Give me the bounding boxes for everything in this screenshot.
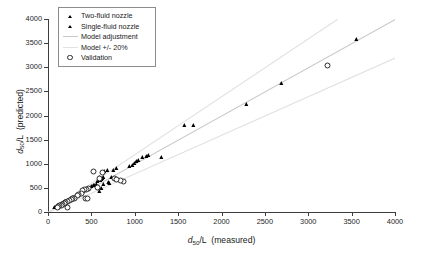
legend-item: Model +/- 20%: [59, 42, 152, 52]
data-point: [140, 155, 144, 159]
legend-item: Model adjustment: [59, 32, 152, 42]
line-swatch-faint-icon: [63, 47, 78, 48]
data-point: [111, 169, 115, 173]
x-tick-label: 3000: [300, 218, 316, 225]
legend-key: [59, 25, 81, 28]
data-point: [244, 102, 248, 106]
data-point: [64, 204, 70, 210]
y-tick-label: 1000: [26, 160, 42, 167]
x-tick-label: 4000: [387, 218, 403, 225]
legend-item: Single-fluid nozzle: [59, 21, 152, 31]
x-tick-label: 0: [46, 218, 50, 225]
data-point: [91, 169, 97, 175]
x-tick: [352, 212, 353, 216]
x-tick: [48, 212, 49, 216]
legend-key: [59, 36, 81, 37]
legend-item: Two-fluid nozzle: [59, 11, 152, 21]
data-point: [106, 180, 110, 184]
x-tick: [308, 212, 309, 216]
x-tick-label: 500: [85, 218, 97, 225]
data-point: [144, 155, 148, 159]
data-point: [354, 37, 358, 41]
x-tick: [265, 212, 266, 216]
y-tick-label: 2000: [26, 112, 42, 119]
x-tick-label: 2500: [257, 218, 273, 225]
y-tick-label: 1500: [26, 136, 42, 143]
data-point: [96, 176, 102, 182]
data-point: [100, 170, 106, 176]
legend-item: Validation: [59, 53, 152, 63]
data-point: [325, 63, 331, 69]
x-tick: [135, 212, 136, 216]
scatter-chart-figure: d50/L (predicted) 0500100015002000250030…: [0, 0, 429, 254]
chart-legend: Two-fluid nozzleSingle-fluid nozzleModel…: [58, 7, 156, 67]
legend-label: Single-fluid nozzle: [81, 23, 139, 31]
data-point: [101, 182, 105, 186]
x-tick-label: 2000: [213, 218, 229, 225]
x-tick: [178, 212, 179, 216]
data-point: [113, 176, 119, 182]
legend-label: Model adjustment: [81, 33, 138, 41]
x-tick: [91, 212, 92, 216]
legend-key: [59, 47, 81, 48]
x-tick-label: 1000: [127, 218, 143, 225]
data-point: [54, 204, 60, 210]
data-point: [115, 166, 119, 170]
data-point: [159, 156, 163, 160]
data-point: [94, 184, 100, 190]
legend-key: [59, 55, 81, 60]
line-swatch-icon: [63, 36, 78, 37]
data-point: [280, 81, 284, 85]
data-point: [127, 164, 131, 168]
filled-triangle-icon: [68, 15, 72, 18]
filled-triangle-icon: [68, 25, 72, 28]
x-tick-label: 3500: [343, 218, 359, 225]
x-tick: [395, 212, 396, 216]
legend-label: Two-fluid nozzle: [81, 12, 133, 20]
y-tick-label: 3500: [26, 39, 42, 46]
x-tick-label: 1500: [170, 218, 186, 225]
legend-key: [59, 15, 81, 18]
y-tick-label: 0: [38, 208, 42, 215]
legend-label: Model +/- 20%: [81, 44, 128, 52]
data-point: [85, 195, 91, 201]
legend-label: Validation: [81, 54, 112, 62]
y-tick-label: 2500: [26, 88, 42, 95]
x-tick: [222, 212, 223, 216]
y-tick-label: 4000: [26, 15, 42, 22]
data-point: [182, 123, 186, 127]
data-point: [191, 123, 195, 127]
y-tick-label: 500: [30, 184, 42, 191]
open-circle-icon: [67, 55, 72, 60]
y-tick-label: 3000: [26, 64, 42, 71]
x-axis-title: d50/L (measured): [48, 236, 395, 247]
